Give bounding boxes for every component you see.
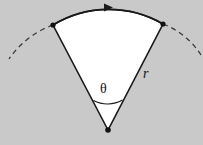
dot-marker-icon-left (50, 22, 55, 27)
sector-diagram-canvas (0, 0, 203, 145)
angle-label: θ (100, 82, 107, 96)
radius-label: r (143, 67, 148, 81)
dot-marker-icon-center (105, 127, 111, 133)
sector-diagram-figure: θ r (0, 0, 203, 145)
dot-marker-icon-right (160, 21, 165, 26)
